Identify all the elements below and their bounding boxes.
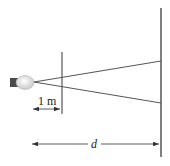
diagram-canvas: 1 m d [0, 0, 170, 166]
ray-upper [34, 61, 161, 82]
label-d: d [91, 137, 98, 151]
light-bulb-icon [10, 76, 34, 90]
label-1m: 1 m [38, 94, 57, 108]
